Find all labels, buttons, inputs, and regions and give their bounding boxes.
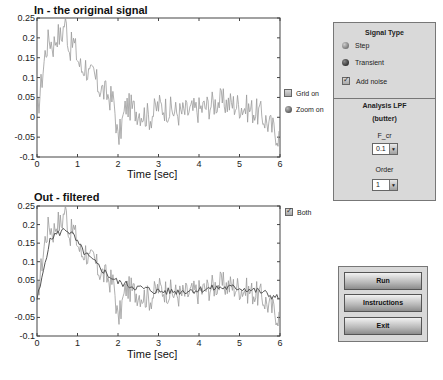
x-tick-label: 2 [115,338,120,348]
zoom-radio-icon[interactable] [285,106,292,113]
y-tick-label: 0 [30,294,35,304]
analysis-lpf-subtitle: (butter) [334,115,435,122]
run-button[interactable]: Run [344,272,422,290]
zoom-on-label: Zoom on [296,106,324,113]
y-tick-label: -0.05 [14,312,35,322]
signal-type-heading: Signal Type [334,29,435,36]
both-checkbox-box[interactable] [285,208,293,216]
y-tick-label: 0.2 [22,220,35,230]
transient-label: Transient [355,59,384,66]
x-tick-label: 0 [34,338,39,348]
zoom-on-radio[interactable]: Zoom on [285,106,324,113]
panel-divider [334,98,435,99]
both-checkbox[interactable]: Both [285,208,311,216]
radio-step[interactable]: Step [342,42,369,49]
x-tick-label: 1 [75,338,80,348]
add-noise-box[interactable] [342,77,350,85]
order-label: Order [334,166,435,173]
x-tick-label: 5 [237,338,242,348]
grid-on-checkbox[interactable]: Grid on [284,89,319,97]
exit-button[interactable]: Exit [344,317,422,335]
fcr-value: 0.1 [376,145,386,152]
chevron-down-icon[interactable]: ▼ [389,144,397,154]
radio-transient[interactable]: Transient [342,59,384,66]
y-tick-label: -0.1 [19,331,35,341]
order-select[interactable]: 1 ▼ [372,179,398,191]
settings-panel: Signal Type Step Transient Add noise Ana… [333,22,436,201]
instructions-button[interactable]: Instructions [344,294,422,312]
y-tick-label: 0.25 [17,201,35,211]
analysis-lpf-heading: Analysis LPF [334,102,435,109]
x-tick-label: 6 [277,338,282,348]
step-radio-icon[interactable] [342,42,349,49]
y-tick-label: 0.05 [17,275,35,285]
y-tick-label: 0.1 [22,257,35,267]
x-tick-label: 3 [156,338,161,348]
add-noise-checkbox[interactable]: Add noise [342,77,387,85]
add-noise-label: Add noise [356,78,387,85]
grid-on-label: Grid on [296,90,319,97]
step-label: Step [355,42,369,49]
both-label: Both [297,209,311,216]
action-buttons-panel: Run Instructions Exit [338,266,428,342]
fcr-label: F_cr [334,132,435,139]
x-tick-label: 4 [196,338,201,348]
order-value: 1 [376,181,380,188]
fcr-select[interactable]: 0.1 ▼ [372,143,398,155]
bottom-plot-xlabel: Time [sec] [127,348,177,360]
y-tick-label: 0.15 [17,238,35,248]
chevron-down-icon[interactable]: ▼ [389,180,397,190]
transient-radio-icon[interactable] [342,59,349,66]
grid-checkbox-box[interactable] [284,89,292,97]
